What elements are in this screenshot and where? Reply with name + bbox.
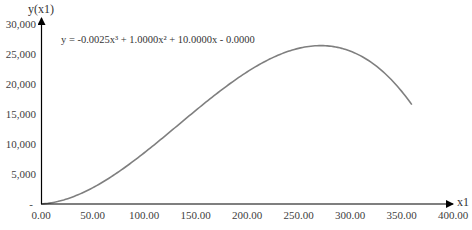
trendline-equation: y = -0.0025x³ + 1.0000x² + 10.0000x - 0.…: [61, 34, 255, 45]
x-tick-label: 50.00: [80, 209, 105, 221]
x-axis-title: x1: [457, 195, 469, 209]
cubic-function-chart: -5,00010,00015,00020,00025,00030,000 0.0…: [0, 0, 472, 230]
y-tick-label: 25,000: [6, 48, 37, 60]
x-tick-label: 0.00: [31, 209, 51, 221]
x-tick-label: 200.00: [232, 209, 263, 221]
y-tick-label: 15,000: [6, 108, 37, 120]
x-tick-label: 150.00: [180, 209, 211, 221]
x-tick-label: 350.00: [386, 209, 417, 221]
x-tick-label: 400.00: [438, 209, 469, 221]
x-axis-tick-labels: 0.0050.00100.00150.00200.00250.00300.003…: [31, 209, 468, 221]
y-tick-label: 30,000: [6, 18, 37, 30]
x-tick-label: 300.00: [335, 209, 366, 221]
x-tick-label: 250.00: [283, 209, 314, 221]
x-tick-label: 100.00: [129, 209, 160, 221]
y-tick-label: 10,000: [6, 138, 37, 150]
y-tick-label: 20,000: [6, 78, 37, 90]
y-axis-tick-labels: -5,00010,00015,00020,00025,00030,000: [6, 18, 37, 210]
data-series-line: [41, 46, 412, 204]
y-tick-label: 5,000: [11, 168, 36, 180]
y-axis-title: y(x1): [28, 2, 54, 16]
